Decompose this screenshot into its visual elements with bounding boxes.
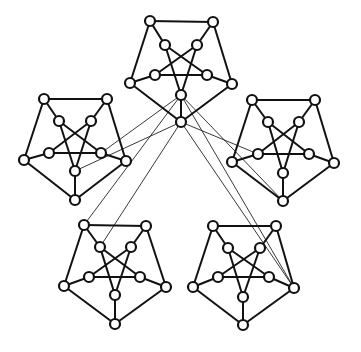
node-top (192, 40, 202, 50)
node-bottom-left (59, 281, 69, 291)
node-right (227, 157, 237, 167)
node-left (39, 94, 49, 104)
node-bottom-right (223, 243, 233, 253)
node-right (304, 149, 314, 159)
node-bottom-right (213, 272, 223, 282)
node-top (176, 117, 186, 127)
node-bottom-left (141, 221, 151, 231)
node-left (70, 195, 80, 205)
node-top (202, 70, 212, 80)
outer-edge (64, 286, 115, 324)
node-bottom-right (238, 292, 248, 302)
outer-edge (193, 287, 243, 325)
node-bottom-left (126, 242, 136, 252)
node-right (310, 95, 320, 105)
star-edge (268, 122, 309, 154)
node-bottom-right (289, 283, 299, 293)
node-right (247, 95, 257, 105)
outer-edge (193, 226, 213, 287)
outer-edge (213, 22, 232, 84)
node-top (227, 79, 237, 89)
node-bottom-right (238, 320, 248, 330)
node-bottom-left (135, 272, 145, 282)
star-edge (100, 247, 115, 295)
node-left (70, 166, 80, 176)
node-bottom-left (95, 242, 105, 252)
cross-edge (101, 95, 181, 153)
outer-edge (75, 161, 126, 200)
outer-edge (146, 226, 166, 287)
star-edge (228, 248, 243, 297)
node-left (19, 155, 29, 165)
node-bottom-right (188, 282, 198, 292)
node-bottom-right (255, 243, 265, 253)
node-bottom-left (84, 272, 94, 282)
node-right (263, 117, 273, 127)
node-bottom-left (110, 319, 120, 329)
cross-edge (181, 122, 258, 154)
star-edge (258, 122, 299, 154)
node-right (278, 196, 288, 206)
outer-edge (24, 160, 75, 200)
star-edge (115, 247, 131, 295)
node-bottom-left (79, 220, 89, 230)
node-right (294, 117, 304, 127)
node-right (329, 158, 339, 168)
node-top (125, 78, 135, 88)
node-left (121, 156, 131, 166)
node-right (278, 168, 288, 178)
cross-edge (181, 95, 294, 288)
outer-edge (115, 287, 166, 324)
node-right (253, 149, 263, 159)
outer-edge (64, 225, 84, 286)
star-edge (59, 121, 75, 171)
node-bottom-left (161, 282, 171, 292)
node-bottom-right (208, 221, 218, 231)
outer-edge (276, 226, 294, 288)
outer-edge (315, 100, 334, 163)
node-left (44, 148, 54, 158)
outer-edge (84, 225, 146, 226)
outer-edge (24, 99, 44, 160)
star-edge (243, 248, 260, 297)
star-edge (165, 45, 181, 95)
node-left (86, 116, 96, 126)
graph-nodes (19, 16, 339, 330)
node-top (160, 40, 170, 50)
graph-diagram (0, 0, 361, 352)
node-top (145, 16, 155, 26)
outer-edge (283, 163, 334, 201)
star-edge (75, 121, 91, 171)
star-edge (283, 122, 299, 173)
node-top (150, 70, 160, 80)
node-bottom-right (264, 272, 274, 282)
node-left (102, 94, 112, 104)
star-edge (181, 45, 197, 95)
outer-edge (232, 100, 252, 162)
node-top (176, 90, 186, 100)
star-edge (268, 122, 283, 173)
node-top (208, 17, 218, 27)
node-bottom-right (271, 221, 281, 231)
star-edge (89, 247, 131, 277)
outer-edge (150, 21, 213, 22)
node-bottom-left (110, 290, 120, 300)
outer-edge (130, 83, 181, 122)
outer-edge (243, 288, 294, 325)
node-left (54, 116, 64, 126)
node-left (96, 148, 106, 158)
outer-edge (130, 21, 150, 83)
